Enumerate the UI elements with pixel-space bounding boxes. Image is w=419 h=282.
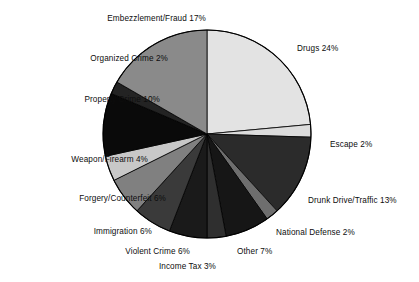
slice-label-forgery-counterfeit: Forgery/Counterfeit 6%: [4, 194, 166, 204]
slice-label-immigration: Immigration 6%: [30, 227, 152, 237]
slice-label-property-crime: Property Crime 10%: [8, 95, 160, 105]
pie-slice-drugs: [207, 30, 311, 134]
slice-label-weapon-firearm: Weapon/Firearm 4%: [10, 155, 148, 165]
slice-label-embezzlement-fraud: Embezzlement/Fraud 17%: [56, 14, 206, 24]
slice-label-drugs: Drugs 24%: [297, 44, 387, 54]
slice-label-violent-crime: Violent Crime 6%: [62, 247, 190, 257]
slice-label-other: Other 7%: [237, 247, 327, 257]
slice-label-drunk-drive-traffic: Drunk Drive/Traffic 13%: [308, 196, 419, 206]
pie-chart: Embezzlement/Fraud 17% Organized Crime 2…: [0, 0, 419, 282]
slice-label-income-tax: Income Tax 3%: [96, 262, 216, 272]
slice-label-escape: Escape 2%: [330, 140, 416, 150]
slice-label-organized-crime: Organized Crime 2%: [26, 54, 168, 64]
slice-label-national-defense: National Defense 2%: [276, 228, 416, 238]
